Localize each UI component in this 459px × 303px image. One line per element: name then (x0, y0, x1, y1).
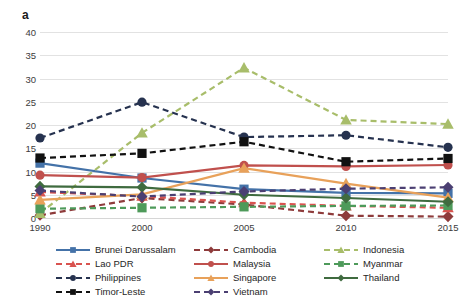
data-point-marker (341, 131, 350, 140)
x-axis-baseline (40, 218, 448, 219)
x-axis-tick-label: 2015 (437, 222, 458, 233)
data-point-marker (35, 133, 44, 142)
legend-item[interactable]: Cambodia (194, 243, 276, 257)
plot-area (40, 32, 448, 218)
data-point-marker (35, 171, 44, 180)
data-point-marker (341, 157, 350, 166)
x-axis-tick-label: 2010 (335, 222, 356, 233)
legend-column-3: IndonesiaMyanmarThailand (324, 243, 404, 285)
data-point-marker (35, 153, 44, 162)
legend-marker-icon (69, 274, 77, 282)
legend-marker-icon (337, 274, 345, 282)
y-axis-tick-label: 40 (2, 27, 36, 38)
legend-column-1: Brunei DarussalamLao PDRPhilippinesTimor… (56, 243, 176, 299)
legend-column-2: CambodiaMalaysiaSingaporeVietnam (194, 243, 276, 299)
legend-marker-icon (207, 288, 215, 296)
y-axis-tick-label: 20 (2, 120, 36, 131)
legend-marker-icon (69, 288, 77, 296)
data-point-marker (443, 143, 452, 152)
x-axis-tick-label: 1990 (29, 222, 50, 233)
legend-marker-icon (337, 246, 345, 254)
y-axis-tick-label: 30 (2, 73, 36, 84)
chart-legend: Brunei DarussalamLao PDRPhilippinesTimor… (36, 243, 454, 301)
legend-marker-icon (337, 260, 345, 268)
legend-marker-icon (69, 260, 77, 268)
data-point-marker (35, 204, 44, 213)
legend-item-label: Vietnam (233, 286, 268, 298)
legend-item[interactable]: Timor-Leste (56, 285, 176, 299)
y-axis-tick-label: 25 (2, 96, 36, 107)
legend-key-diamond-icon (324, 272, 358, 284)
legend-key-square-icon (324, 258, 358, 270)
legend-item-label: Malaysia (233, 258, 271, 270)
legend-marker-icon (207, 274, 215, 282)
data-point-marker (136, 127, 148, 137)
x-axis-tick-labels: 19902000200520102015 (40, 222, 448, 238)
y-axis-tick-label: 5 (2, 189, 36, 200)
legend-key-triangle-icon (324, 244, 358, 256)
legend-marker-icon (207, 246, 215, 254)
legend-item-label: Cambodia (233, 244, 276, 256)
legend-marker-icon (69, 246, 77, 254)
legend-item[interactable]: Philippines (56, 271, 176, 285)
x-axis-tick-label: 2005 (233, 222, 254, 233)
data-point-marker (137, 98, 146, 107)
data-point-marker (340, 114, 352, 124)
legend-item-label: Lao PDR (95, 258, 134, 270)
data-point-marker (137, 173, 146, 182)
legend-key-circle-icon (56, 272, 90, 284)
data-point-marker (442, 211, 453, 222)
legend-key-diamond-icon (194, 286, 228, 298)
legend-item[interactable]: Vietnam (194, 285, 276, 299)
legend-key-circle-icon (194, 258, 228, 270)
legend-item[interactable]: Malaysia (194, 257, 276, 271)
legend-key-diamond-icon (194, 244, 228, 256)
y-axis-tick-label: 10 (2, 166, 36, 177)
legend-marker-icon (207, 260, 215, 268)
legend-item-label: Philippines (95, 272, 141, 284)
legend-item[interactable]: Singapore (194, 271, 276, 285)
legend-item-label: Myanmar (363, 258, 403, 270)
series-lines-layer (40, 32, 448, 218)
data-point-marker (137, 149, 146, 158)
legend-item[interactable]: Indonesia (324, 243, 404, 257)
legend-item-label: Timor-Leste (95, 286, 145, 298)
y-axis-tick-labels: 0510152025303540 (0, 32, 36, 218)
data-point-marker (239, 202, 248, 211)
data-point-marker (238, 62, 250, 72)
legend-item[interactable]: Myanmar (324, 257, 404, 271)
legend-key-square-icon (56, 286, 90, 298)
legend-item[interactable]: Thailand (324, 271, 404, 285)
x-axis-tick-label: 2000 (131, 222, 152, 233)
data-point-marker (137, 203, 146, 212)
legend-item-label: Indonesia (363, 244, 404, 256)
legend-key-triangle-icon (56, 258, 90, 270)
y-axis-tick-label: 35 (2, 50, 36, 61)
legend-item[interactable]: Lao PDR (56, 257, 176, 271)
data-point-marker (239, 137, 248, 146)
legend-item-label: Brunei Darussalam (95, 244, 176, 256)
data-point-marker (443, 154, 452, 163)
legend-key-square-icon (56, 244, 90, 256)
legend-item-label: Thailand (363, 272, 399, 284)
legend-item-label: Singapore (233, 272, 276, 284)
data-point-marker (340, 210, 351, 221)
legend-key-triangle-icon (194, 272, 228, 284)
panel-letter-label: a (22, 8, 29, 22)
legend-item[interactable]: Brunei Darussalam (56, 243, 176, 257)
y-axis-tick-label: 15 (2, 143, 36, 154)
